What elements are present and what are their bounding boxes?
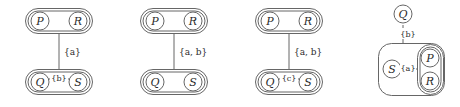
panel-1-vertical-edge-label: {a} bbox=[64, 47, 81, 57]
panel-2-node-R-label: R bbox=[188, 15, 197, 28]
panel-1-node-R-label: R bbox=[73, 15, 82, 28]
panel-3-node-P-label: P bbox=[265, 15, 274, 28]
panel-3: P R Q S {a, b} {c} bbox=[256, 9, 323, 95]
panel-4: Q S P R {b} {a} bbox=[379, 5, 445, 96]
panel-2-node-S-label: S bbox=[189, 76, 197, 89]
panel-3-vertical-edge-label: {a, b} bbox=[294, 47, 322, 57]
figure-root: P R Q S {a} {b} P R bbox=[0, 0, 460, 107]
panel-1-horizontal-edge-label: {b} bbox=[51, 74, 66, 83]
panel-3-node-S-label: S bbox=[304, 76, 312, 89]
diagram-canvas: P R Q S {a} {b} P R bbox=[0, 0, 460, 107]
panel-1: P R Q S {a} {b} bbox=[26, 9, 93, 95]
panel-3-node-R-label: R bbox=[303, 15, 312, 28]
panel-1-node-S-label: S bbox=[74, 76, 82, 89]
panel-2-vertical-edge-label: {a, b} bbox=[179, 47, 207, 57]
panel-3-node-Q-label: Q bbox=[265, 76, 274, 89]
panel-2: P R Q S {a, b} bbox=[141, 9, 208, 95]
panel-4-node-Q-label: Q bbox=[398, 8, 407, 21]
panel-1-node-P-label: P bbox=[35, 15, 44, 28]
panel-3-horizontal-edge-label: {c} bbox=[282, 74, 297, 83]
panel-4-node-R-label: R bbox=[425, 75, 434, 88]
panel-4-horizontal-edge-label: {a} bbox=[401, 64, 416, 73]
panel-2-node-Q-label: Q bbox=[150, 76, 159, 89]
panel-2-node-P-label: P bbox=[150, 15, 159, 28]
panel-4-node-P-label: P bbox=[425, 52, 434, 65]
panel-1-node-Q-label: Q bbox=[35, 76, 44, 89]
panel-4-node-S-label: S bbox=[388, 63, 396, 76]
panel-4-vertical-edge-label: {b} bbox=[400, 30, 415, 39]
